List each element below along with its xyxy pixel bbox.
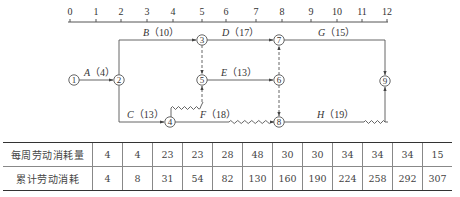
activity-label-E: E（13）: [220, 67, 257, 78]
axis-tick-8: 8: [280, 6, 285, 17]
svg-text:5: 5: [200, 75, 205, 85]
table-cell: 8: [123, 167, 153, 191]
node-9: 9: [380, 76, 390, 86]
table-cell: 4: [93, 167, 123, 191]
node-5: 5: [197, 75, 207, 85]
table-cell: 54: [183, 167, 213, 191]
edge-dummy-4-5-float: [171, 102, 203, 110]
axis-tick-10: 10: [332, 6, 342, 17]
svg-text:3: 3: [200, 35, 205, 45]
svg-text:7: 7: [277, 35, 282, 45]
activity-label-D: D（17）: [221, 27, 259, 38]
row-label-cumulative: 累计劳动消耗: [3, 167, 93, 191]
edge-H-float: [364, 121, 388, 124]
table-cell: 34: [393, 143, 423, 167]
svg-text:6: 6: [277, 75, 282, 85]
table-cell: 28: [213, 143, 243, 167]
axis-tick-3: 3: [145, 6, 150, 17]
table-cell: 307: [423, 167, 453, 191]
axis-tick-7: 7: [254, 6, 259, 17]
axis-tick-9: 9: [309, 6, 314, 17]
table-cell: 224: [333, 167, 363, 191]
axis-tick-11: 11: [357, 6, 367, 17]
table-cell: 30: [273, 143, 303, 167]
svg-text:1: 1: [72, 75, 77, 85]
node-2: 2: [114, 75, 124, 85]
table-cell: 4: [93, 143, 123, 167]
table-cell: 30: [303, 143, 333, 167]
node-8: 8: [274, 117, 284, 127]
table-cell: 15: [423, 143, 453, 167]
table-cell: 258: [363, 167, 393, 191]
edge-F-float: [229, 121, 274, 124]
table-cell: 31: [153, 167, 183, 191]
node-6: 6: [274, 75, 284, 85]
time-scaled-network-diagram: 0 1 2 3 4 5 6 7 8 9 10 11 12: [0, 0, 460, 140]
table-cell: 23: [153, 143, 183, 167]
row-label-weekly: 每周劳动消耗量: [3, 143, 93, 167]
edge-G: [284, 40, 385, 75]
svg-text:2: 2: [117, 75, 122, 85]
table-cell: 34: [333, 143, 363, 167]
activity-label-C: C（13）: [127, 109, 164, 120]
table-cell: 48: [243, 143, 273, 167]
axis-tick-5: 5: [200, 6, 205, 17]
table-cell: 23: [183, 143, 213, 167]
axis-tick-6: 6: [224, 6, 229, 17]
table-cell: 130: [243, 167, 273, 191]
activity-label-G: G（15）: [318, 27, 355, 38]
axis-tick-4: 4: [171, 6, 176, 17]
axis-tick-1: 1: [94, 6, 99, 17]
node-4: 4: [165, 117, 175, 127]
axis-tick-0: 0: [68, 6, 73, 17]
activity-label-A: A（4）: [83, 67, 115, 78]
node-3: 3: [197, 35, 207, 45]
table-cell: 292: [393, 167, 423, 191]
svg-text:8: 8: [277, 117, 282, 127]
table-cell: 34: [363, 143, 393, 167]
edge-B: [119, 40, 196, 75]
activity-labels: A（4） B（10） C（13） D（17） E（13） F（18） G（15）…: [83, 27, 355, 120]
node-1: 1: [69, 75, 79, 85]
svg-text:4: 4: [168, 117, 173, 127]
table-cell: 160: [273, 167, 303, 191]
activity-label-B: B（10）: [143, 27, 179, 38]
table-cell: 4: [123, 143, 153, 167]
labor-consumption-table: 每周劳动消耗量 4 4 23 23 28 48 30 30 34 34 34 1…: [3, 142, 452, 191]
axis-tick-2: 2: [119, 6, 124, 17]
table-row-weekly: 每周劳动消耗量 4 4 23 23 28 48 30 30 34 34 34 1…: [3, 143, 452, 167]
table-row-cumulative: 累计劳动消耗 4 8 31 54 82 130 160 190 224 258 …: [3, 167, 452, 191]
axis-tick-12: 12: [382, 6, 392, 17]
activity-label-H: H（19）: [316, 109, 354, 120]
svg-text:9: 9: [383, 76, 388, 86]
node-7: 7: [274, 35, 284, 45]
time-axis: 0 1 2 3 4 5 6 7 8 9 10 11 12: [68, 6, 393, 22]
activity-label-F: F（18）: [199, 109, 236, 120]
table-cell: 82: [213, 167, 243, 191]
table-cell: 190: [303, 167, 333, 191]
